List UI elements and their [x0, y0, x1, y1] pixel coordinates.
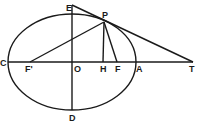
- label-D: D: [69, 113, 76, 123]
- label-C: C: [0, 58, 7, 68]
- label-H: H: [100, 64, 107, 74]
- label-P: P: [102, 10, 108, 20]
- focal-radius-FprimeP: [30, 22, 104, 62]
- label-A: A: [136, 64, 143, 74]
- perpendicular-PH: [103, 22, 104, 62]
- label-F-prime: F': [25, 64, 33, 74]
- label-T: T: [189, 64, 195, 74]
- focal-radius-PF: [104, 22, 117, 62]
- label-E: E: [66, 3, 72, 13]
- label-O: O: [74, 64, 81, 74]
- tangent-line-ET: [72, 5, 193, 62]
- label-F: F: [115, 64, 121, 74]
- ellipse-diagram: E P C F' O H F A T D: [0, 0, 197, 125]
